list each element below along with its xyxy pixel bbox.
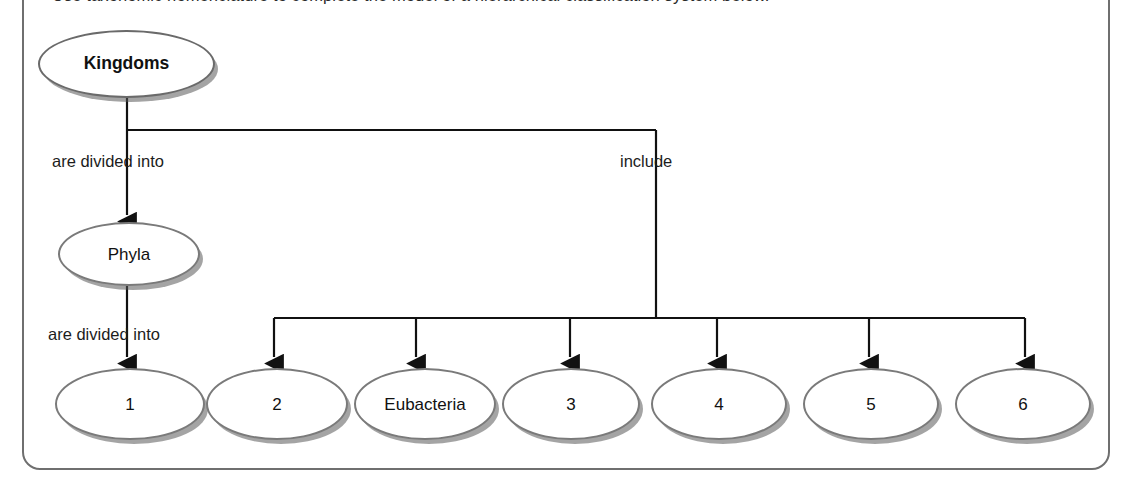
node-blank-2-label: 2 (272, 396, 281, 413)
edge-label-are-divided-into-classes: are divided into (48, 326, 160, 343)
node-blank-4[interactable]: 4 (651, 368, 787, 440)
node-kingdoms-label: Kingdoms (84, 55, 170, 73)
node-blank-5[interactable]: 5 (803, 368, 939, 440)
node-blank-3[interactable]: 3 (502, 368, 640, 440)
node-blank-6-label: 6 (1018, 396, 1027, 413)
node-phyla-label: Phyla (108, 246, 151, 263)
node-phyla[interactable]: Phyla (58, 222, 200, 286)
node-blank-2[interactable]: 2 (206, 368, 348, 440)
node-blank-6[interactable]: 6 (955, 368, 1091, 440)
node-blank-1[interactable]: 1 (55, 368, 205, 440)
worksheet-page: Use taxonomic nomenclature to complete t… (0, 0, 1128, 491)
node-eubacteria[interactable]: Eubacteria (354, 368, 496, 440)
node-blank-5-label: 5 (866, 396, 875, 413)
edge-label-include: include (620, 153, 672, 170)
node-blank-4-label: 4 (714, 396, 723, 413)
node-blank-1-label: 1 (125, 396, 134, 413)
node-blank-3-label: 3 (566, 396, 575, 413)
edge-label-are-divided-into-phyla: are divided into (52, 153, 164, 170)
node-kingdoms[interactable]: Kingdoms (38, 30, 215, 98)
node-eubacteria-label: Eubacteria (384, 396, 465, 413)
